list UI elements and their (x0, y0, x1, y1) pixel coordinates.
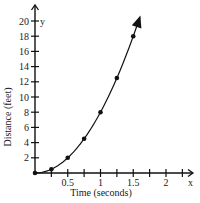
x-axis-name: x (188, 177, 193, 188)
x-axis-ticks: 0.511.52 (51, 169, 182, 188)
data-curve (35, 17, 140, 173)
y-axis-ticks: 2468101214161820 (19, 16, 39, 164)
x-tick-label: 2 (164, 177, 169, 188)
y-tick-label: 14 (19, 61, 29, 72)
y-tick-label: 10 (19, 92, 29, 103)
y-tick-label: 16 (19, 46, 29, 57)
data-point (131, 34, 136, 39)
data-point (82, 137, 87, 142)
curve-arrowhead-icon (132, 15, 141, 28)
x-axis-title: Time (seconds) (70, 187, 132, 199)
y-tick-label: 20 (19, 16, 29, 27)
data-point (49, 167, 54, 172)
distance-time-chart: 2468101214161820 0.511.52 y x Distance (… (0, 0, 200, 203)
data-point (115, 76, 120, 81)
data-point (33, 171, 38, 176)
y-axis-title: Distance (feet) (2, 87, 14, 146)
data-point (98, 110, 103, 115)
y-tick-label: 12 (19, 76, 29, 87)
data-point (65, 156, 70, 161)
y-tick-label: 18 (19, 31, 29, 42)
y-tick-label: 8 (24, 107, 29, 118)
data-points (33, 34, 136, 175)
y-tick-label: 2 (24, 152, 29, 163)
y-axis-name: y (40, 16, 45, 27)
y-tick-label: 4 (24, 137, 29, 148)
y-tick-label: 6 (24, 122, 29, 133)
